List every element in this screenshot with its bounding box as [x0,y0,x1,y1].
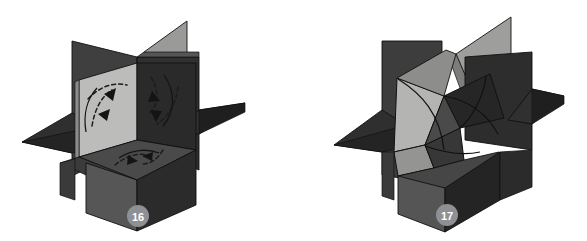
spike-right-horizontal-lower-17 [532,89,564,124]
panel-center-right-dark [137,63,196,150]
step-16-figure: 16 [0,0,293,241]
step-17-illustration: 17 [294,0,587,241]
step-17-badge: 17 [436,204,458,226]
flap-left-vertical-17 [382,152,394,200]
step-17-figure: 17 [294,0,587,241]
flap-left-vertical [60,159,75,200]
flap-lower-right-17 [500,150,532,200]
panel-center-light-edge [75,80,79,159]
figure-canvas: 16 [0,0,587,241]
fin-upper-right-edge-strip [137,52,199,57]
step-16-illustration: 16 [0,0,293,241]
spike-right-horizontal-lower [199,103,245,134]
step-17-badge-label: 17 [441,210,453,222]
step-16-badge: 16 [127,205,149,227]
step-16-badge-label: 16 [132,211,144,223]
step-17-model [334,17,564,232]
step-16-model [22,21,245,231]
